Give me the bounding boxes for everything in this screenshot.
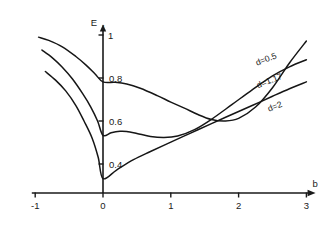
chart-figure: -10123b0.40.60.81Ed=0.5d=1.17d=21 [0,0,332,227]
x-tick-label: 2 [236,200,241,211]
series-label: d=0.5 [254,50,278,67]
series-label: d=1.17 [255,71,284,90]
x-tick-label: -1 [31,200,39,211]
x-tick-label: 0 [100,200,105,211]
curve-d-2 [45,72,306,179]
series-label-group: d=1.17 [255,71,284,90]
y-tick-label: 1 [108,30,113,41]
x-tick-label: 1 [168,200,173,211]
y-axis-label: E [91,17,97,28]
x-axis-label: b [313,178,318,189]
series-label-group: d=2 [266,99,283,114]
x-tick-label: 3 [304,200,309,211]
x-axis-arrow-icon [308,190,316,196]
series-label-group: d=0.5 [254,50,278,67]
line-chart: -10123b0.40.60.81Ed=0.5d=1.17d=21 [0,0,332,227]
series-label: d=2 [266,99,283,114]
y-tick-label: 0.6 [109,116,122,127]
y-axis-label-subscript: 1 [102,24,106,31]
